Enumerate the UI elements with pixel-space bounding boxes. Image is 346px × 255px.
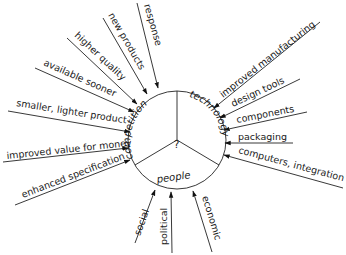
center-question-mark: ? <box>174 139 179 150</box>
influence-diagram: ? competition technology people response… <box>0 0 346 255</box>
people-arrows: social political economic <box>132 190 224 253</box>
label-political: political <box>158 208 169 245</box>
label-computers-integration: computers, integration <box>237 144 345 183</box>
technology-arrows: improved manufacturing design tools comp… <box>214 18 346 188</box>
segment-competition: competition <box>121 97 149 161</box>
arrow-political <box>171 192 172 253</box>
label-economic: economic <box>200 194 224 241</box>
divider-left <box>135 140 177 165</box>
label-social: social <box>132 207 152 236</box>
divider-right <box>177 140 219 165</box>
label-response: response <box>142 3 165 48</box>
segment-people: people <box>155 169 191 185</box>
label-packaging: packaging <box>238 131 287 142</box>
arrow-enhanced-specification <box>15 160 130 205</box>
